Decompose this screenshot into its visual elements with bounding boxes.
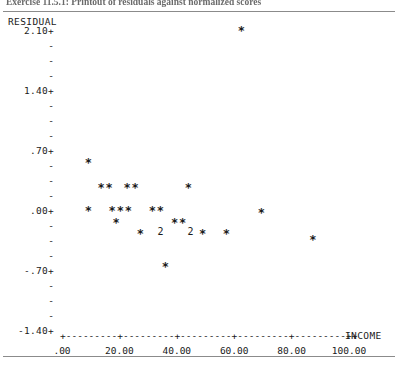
y-minor-tick: -: [0, 100, 54, 111]
data-point: *: [137, 229, 144, 239]
data-point: *: [171, 218, 178, 228]
data-point-overplot: 2: [188, 227, 194, 237]
printout-page: Exercise 11.5.1: Printout of residuals a…: [0, 0, 398, 370]
y-minor-tick: -: [0, 190, 54, 201]
y-minor-tick: -: [0, 250, 54, 261]
data-point: *: [149, 206, 156, 216]
y-minor-tick: -: [0, 310, 54, 321]
data-point: *: [157, 206, 164, 216]
y-minor-tick: -: [0, 130, 54, 141]
y-minor-tick: -: [0, 175, 54, 186]
y-tick-2: .70+: [0, 145, 54, 156]
x-tick-label-2: 40.00: [162, 345, 191, 356]
y-minor-tick: -: [0, 40, 54, 51]
data-point: *: [309, 235, 316, 245]
data-point-overplot: 2: [157, 227, 163, 237]
data-point: *: [179, 218, 186, 228]
y-minor-tick: -: [0, 160, 54, 171]
y-tick-5: -1.40+: [0, 325, 54, 336]
data-point: *: [199, 229, 206, 239]
y-minor-tick: -: [0, 280, 54, 291]
data-point: *: [85, 206, 92, 216]
x-tick-label-1: 20.00: [105, 345, 134, 356]
data-point: *: [124, 183, 131, 193]
y-tick-3: .00+: [0, 205, 54, 216]
y-tick-4: -.70+: [0, 265, 54, 276]
y-minor-tick: -: [0, 220, 54, 231]
y-tick-1: 1.40+: [0, 85, 54, 96]
data-point: *: [109, 206, 116, 216]
data-point: *: [125, 206, 132, 216]
data-point: *: [223, 229, 230, 239]
x-tick-label-4: 80.00: [277, 345, 306, 356]
y-minor-tick: -: [0, 70, 54, 81]
x-axis-line: +---------+---------+---------+---------…: [60, 330, 357, 341]
data-point: *: [105, 183, 112, 193]
residual-scatter-plot: RESIDUAL INCOME 2.10+---1.40+---.70+---.…: [0, 0, 398, 370]
y-minor-tick: -: [0, 235, 54, 246]
data-point: *: [113, 218, 120, 228]
x-tick-label-3: 60.00: [220, 345, 249, 356]
data-point: *: [97, 183, 104, 193]
x-tick-label-0: .00: [53, 345, 70, 356]
data-point: *: [85, 158, 92, 168]
y-minor-tick: -: [0, 295, 54, 306]
data-point: *: [238, 26, 245, 36]
data-point: *: [162, 262, 169, 272]
data-point: *: [258, 208, 265, 218]
x-tick-label-5: 100.00: [332, 345, 366, 356]
y-minor-tick: -: [0, 115, 54, 126]
y-tick-0: 2.10+: [0, 25, 54, 36]
y-minor-tick: -: [0, 55, 54, 66]
x-axis-tick-labels: .0020.0040.0060.0080.00100.00: [0, 345, 398, 359]
data-point: *: [185, 183, 192, 193]
data-point: *: [117, 206, 124, 216]
data-point: *: [132, 183, 139, 193]
